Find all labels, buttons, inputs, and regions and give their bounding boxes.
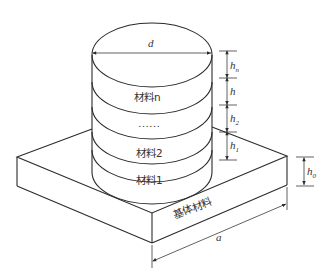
height-h0-label: h0 [307,165,317,180]
ellipsis-label: …… [138,117,160,129]
layer-n-label: 材料n [134,91,161,103]
width-a-label: a [216,231,222,243]
substrate-label: 基体材料 [171,194,214,220]
layer-1-label: 材料1 [136,174,163,186]
cylinder-top-ellipse [92,23,212,87]
height-h2-label: h2 [230,112,240,127]
diagram-canvas: d 材料n …… 材料2 材料1 基体材料 hn h h2 h1 h0 a [0,0,328,279]
height-h1-label: h1 [230,139,239,154]
height-hn-label: hn [230,59,240,74]
height-h-label: h [230,85,236,97]
layer-2-label: 材料2 [136,147,163,159]
diameter-label: d [148,37,154,49]
substrate-width-dimension [152,187,287,268]
diameter-dimension: d [93,37,211,53]
